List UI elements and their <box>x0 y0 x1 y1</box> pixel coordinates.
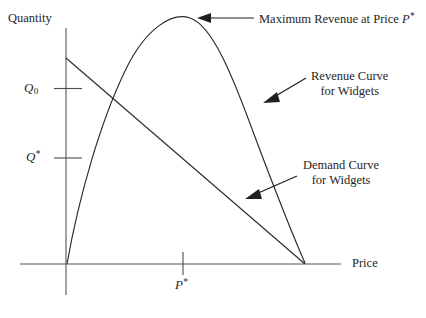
annotation-maximum-revenue-text: Maximum Revenue at Price <box>259 12 402 26</box>
demand-curve-path <box>66 58 305 264</box>
y-tick-label-q0-base: Q <box>24 80 33 95</box>
y-tick-label-q0: Q0 <box>24 81 38 96</box>
annotation-revenue-curve-line1: Revenue Curve <box>311 69 388 84</box>
annotation-revenue-curve: Revenue Curve for Widgets <box>311 69 388 98</box>
x-axis-label: Price <box>352 257 378 270</box>
annotation-maximum-revenue-sup: * <box>410 11 415 21</box>
annotation-demand-curve-line2: for Widgets <box>303 173 379 188</box>
x-tick-label-pstar-sup: * <box>183 277 188 287</box>
y-tick-label-q0-sub: 0 <box>33 86 38 96</box>
x-tick-label-pstar-base: P <box>175 277 183 292</box>
annotation-revenue-curve-line2: for Widgets <box>311 84 388 99</box>
economics-figure: Quantity Price Q0 Q* P* Maximum Revenue … <box>0 0 426 318</box>
annotation-demand-curve: Demand Curve for Widgets <box>303 158 379 187</box>
maximum-revenue-arrow <box>197 13 254 23</box>
annotation-maximum-revenue-symbol: P <box>402 12 410 26</box>
revenue-curve-path <box>67 17 305 264</box>
annotation-maximum-revenue: Maximum Revenue at Price P* <box>259 11 415 26</box>
y-tick-label-qstar-base: Q <box>26 149 35 164</box>
y-tick-label-qstar-sup: * <box>35 149 40 159</box>
revenue-curve-arrow <box>263 78 306 103</box>
x-tick-label-pstar: P* <box>175 278 188 291</box>
y-axis-label: Quantity <box>8 12 52 25</box>
y-tick-label-qstar: Q* <box>26 150 41 163</box>
annotation-demand-curve-line1: Demand Curve <box>303 158 379 173</box>
